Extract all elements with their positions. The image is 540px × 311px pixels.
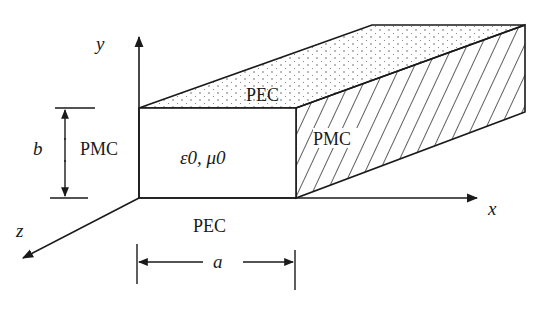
bottom-pec-label: PEC — [193, 216, 226, 236]
left-pmc-label: PMC — [80, 139, 118, 159]
z-axis — [23, 198, 139, 258]
waveguide-diagram: y x z b a PEC PEC PMC PMC ε0, μ0 — [0, 0, 540, 311]
b-dimension-label: b — [33, 138, 43, 159]
a-dimension-label: a — [213, 251, 223, 272]
right-pmc-label: PMC — [313, 129, 351, 149]
medium-label: ε0, μ0 — [180, 147, 226, 168]
x-axis-label: x — [487, 198, 497, 219]
top-pec-label: PEC — [246, 85, 279, 105]
y-axis-label: y — [94, 33, 105, 54]
z-axis-label: z — [15, 220, 24, 241]
